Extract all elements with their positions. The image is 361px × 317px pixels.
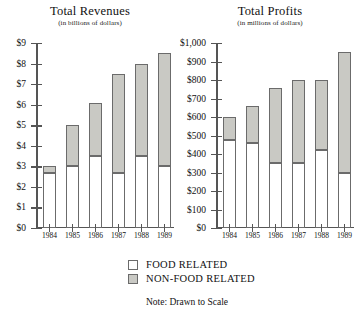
x-tick-label-1988: 1988 xyxy=(314,231,329,240)
legend-item-food: FOOD RELATED xyxy=(128,259,358,270)
plot-area-revenues: $0$1$2$3$4$5$6$7$8$9 1984198519861987198… xyxy=(0,38,180,250)
bar-segment-nonfood xyxy=(66,125,79,166)
chart-note: Note: Drawn to Scale xyxy=(146,297,228,307)
y-tick-label: $1 xyxy=(17,202,27,212)
x-tick-label-1984: 1984 xyxy=(42,231,57,240)
bar-segment-food xyxy=(158,166,171,228)
bar-segment-food xyxy=(292,163,305,228)
chart-legend: FOOD RELATED NON-FOOD RELATED xyxy=(128,259,358,287)
chart-subtitle-profits: (in millions of dollars) xyxy=(180,19,360,27)
axis-area-profits: $0$100$200$300$400$500$600$700$800$900$1… xyxy=(216,43,354,228)
bar-1987 xyxy=(292,80,305,228)
bar-segment-nonfood xyxy=(246,106,259,143)
bar-segment-nonfood xyxy=(292,80,305,163)
y-tick-label: $700 xyxy=(187,94,206,104)
y-tick-label: $7 xyxy=(17,79,27,89)
axis-area-revenues: $0$1$2$3$4$5$6$7$8$9 1984198519861987198… xyxy=(36,43,174,228)
bar-1989 xyxy=(158,53,171,228)
bar-1989 xyxy=(338,52,351,228)
bar-1985 xyxy=(246,106,259,228)
y-tick-label: $500 xyxy=(187,131,206,141)
chart-panel-revenues: Total Revenues (in billions of dollars) … xyxy=(0,0,180,250)
legend-label-food: FOOD RELATED xyxy=(146,259,227,270)
charts-row: Total Revenues (in billions of dollars) … xyxy=(0,0,361,250)
chart-panel-profits: Total Profits (in millions of dollars) $… xyxy=(180,0,360,250)
bars-layer-revenues xyxy=(36,43,174,228)
y-tick-label: $5 xyxy=(17,120,27,130)
y-tick-label: $900 xyxy=(187,57,206,67)
y-tick-label: $300 xyxy=(187,168,206,178)
bar-segment-food xyxy=(223,140,236,228)
bar-1988 xyxy=(315,80,328,228)
x-tick-label-1986: 1986 xyxy=(268,231,283,240)
bar-segment-nonfood xyxy=(158,53,171,166)
legend-swatch-food xyxy=(128,260,138,270)
bar-segment-food xyxy=(246,143,259,228)
bar-segment-food xyxy=(89,156,102,228)
bar-segment-nonfood xyxy=(338,52,351,172)
y-tick-label: $8 xyxy=(17,59,27,69)
y-tick-label: $2 xyxy=(17,182,27,192)
y-tick-label: $800 xyxy=(187,75,206,85)
bar-1986 xyxy=(89,103,102,228)
x-tick-label-1988: 1988 xyxy=(134,231,149,240)
bar-1986 xyxy=(269,88,282,228)
x-tick-label-1986: 1986 xyxy=(88,231,103,240)
bar-1984 xyxy=(43,166,56,228)
y-tick-label: $0 xyxy=(17,223,27,233)
x-tick-label-1987: 1987 xyxy=(291,231,306,240)
bar-segment-food xyxy=(135,156,148,228)
bar-segment-nonfood xyxy=(89,103,102,156)
bar-segment-nonfood xyxy=(112,74,125,173)
plot-area-profits: $0$100$200$300$400$500$600$700$800$900$1… xyxy=(180,38,360,250)
y-tick-label: $400 xyxy=(187,149,206,159)
legend-label-nonfood: NON-FOOD RELATED xyxy=(146,273,255,284)
y-tick-mark: $0 xyxy=(211,228,222,229)
chart-subtitle-revenues: (in billions of dollars) xyxy=(0,19,180,27)
x-tick-label-1984: 1984 xyxy=(222,231,237,240)
bar-segment-food xyxy=(269,163,282,228)
bar-segment-nonfood xyxy=(223,117,236,140)
bars-layer-profits xyxy=(216,43,354,228)
bar-1988 xyxy=(135,64,148,228)
bar-segment-nonfood xyxy=(43,166,56,172)
bar-1984 xyxy=(223,117,236,228)
legend-item-nonfood: NON-FOOD RELATED xyxy=(128,273,358,284)
y-tick-label: $200 xyxy=(187,186,206,196)
x-tick-label-1989: 1989 xyxy=(337,231,352,240)
bar-segment-food xyxy=(66,166,79,228)
legend-swatch-nonfood xyxy=(128,274,138,284)
x-tick-label-1989: 1989 xyxy=(157,231,172,240)
x-tick-label-1987: 1987 xyxy=(111,231,126,240)
x-tick-label-1985: 1985 xyxy=(245,231,260,240)
bar-1985 xyxy=(66,125,79,228)
bar-segment-nonfood xyxy=(269,88,282,163)
chart-title-revenues: Total Revenues xyxy=(0,4,180,18)
bar-1987 xyxy=(112,74,125,228)
y-tick-label: $600 xyxy=(187,112,206,122)
y-tick-label: $3 xyxy=(17,161,27,171)
y-tick-label: $1,000 xyxy=(180,38,206,48)
y-tick-mark: $0 xyxy=(31,228,42,229)
chart-title-profits: Total Profits xyxy=(180,4,360,18)
x-tick-label-1985: 1985 xyxy=(65,231,80,240)
bar-segment-nonfood xyxy=(315,80,328,150)
y-tick-label: $6 xyxy=(17,100,27,110)
bar-segment-food xyxy=(43,173,56,229)
bar-segment-food xyxy=(112,173,125,229)
y-tick-label: $100 xyxy=(187,205,206,215)
y-tick-label: $9 xyxy=(17,38,27,48)
y-tick-label: $4 xyxy=(17,141,27,151)
bar-segment-nonfood xyxy=(135,64,148,157)
y-tick-label: $0 xyxy=(197,223,207,233)
bar-segment-food xyxy=(338,173,351,229)
bar-segment-food xyxy=(315,150,328,228)
